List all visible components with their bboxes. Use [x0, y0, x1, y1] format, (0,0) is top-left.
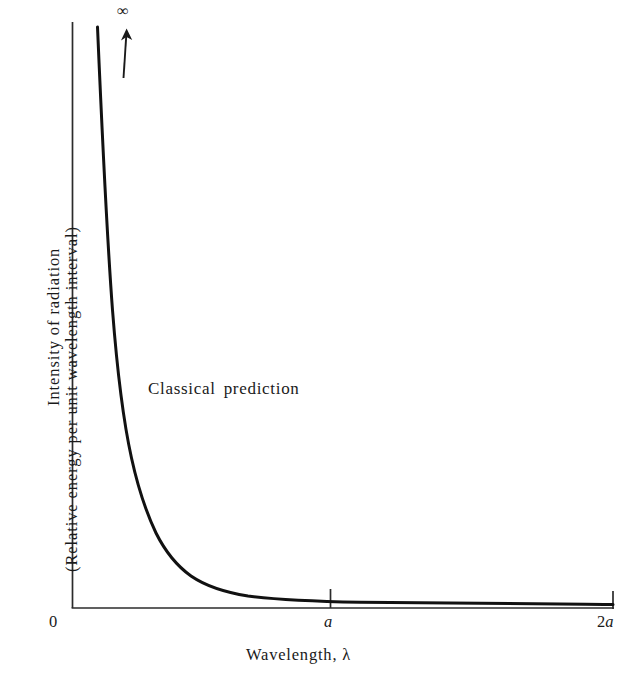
x-tick-2a-variable: a	[605, 612, 613, 631]
infinity-arrow	[121, 29, 132, 79]
x-tick-label-a: a	[324, 612, 332, 632]
x-axis-label: Wavelength,λ	[246, 645, 351, 665]
y-axis-label-primary: Intensity of radiation	[44, 248, 64, 406]
x-tick-label-2a: 2a	[597, 612, 614, 632]
x-axis-label-text: Wavelength,	[246, 645, 337, 664]
lambda-symbol: λ	[342, 645, 351, 664]
x-tick-label-0: 0	[49, 612, 57, 632]
chart-figure: ∞ Intensity of radiation (Relative energ…	[0, 0, 631, 678]
infinity-symbol: ∞	[117, 2, 128, 20]
x-tick-2a-numeral: 2	[597, 612, 605, 631]
classical-prediction-curve	[98, 27, 614, 605]
y-axis-label-secondary: (Relative energy per unit wavelength int…	[62, 226, 82, 572]
chart-canvas	[0, 0, 631, 678]
curve-annotation-label: Classical prediction	[148, 379, 300, 399]
